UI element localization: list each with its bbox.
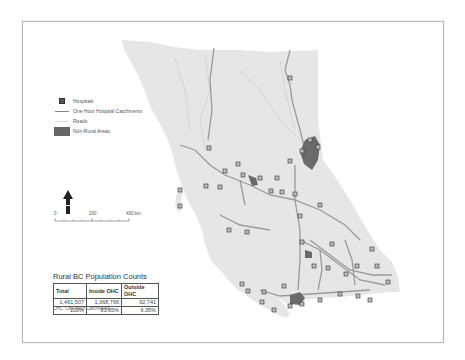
scale-ruler xyxy=(54,217,134,223)
legend-item-roads: Roads xyxy=(54,116,142,126)
header-inside-ohc: Inside OHC xyxy=(87,284,122,299)
scale-bar: 0 200 400 km xyxy=(54,211,164,224)
legend-item-catchments: One Hour Hospital Catchments xyxy=(54,106,142,116)
legend-label: Roads xyxy=(73,118,87,124)
map-legend: Hospitals One Hour Hospital Catchments R… xyxy=(54,96,142,136)
header-total: Total xyxy=(54,284,87,299)
cell-outside-count: 92,741 xyxy=(122,299,159,307)
scale-label-0: 0 xyxy=(54,211,57,216)
population-table-title: Rural BC Population Counts xyxy=(53,272,147,281)
legend-item-non-rural: Non-Rural Areas xyxy=(54,126,142,136)
cell-outside-pct: 6.35% xyxy=(122,307,159,315)
filled-area-icon xyxy=(54,127,70,136)
scale-label-200: 200 xyxy=(89,211,97,216)
line-icon xyxy=(54,111,70,112)
legend-label: Non-Rural Areas xyxy=(73,128,110,134)
legend-label: One Hour Hospital Catchments xyxy=(73,108,142,114)
hospital-icon xyxy=(54,98,70,104)
table-footnote: OHC: One Hour Catchments xyxy=(53,306,110,311)
legend-item-hospitals: Hospitals xyxy=(54,96,142,106)
header-outside-ohc: Outside OHC xyxy=(122,284,159,299)
road-line-icon xyxy=(54,121,70,122)
haida-gwaii xyxy=(175,190,183,212)
legend-label: Hospitals xyxy=(73,98,94,104)
table-header-row: Total Inside OHC Outside OHC xyxy=(54,284,159,299)
scale-label-400: 400 km xyxy=(126,211,141,216)
